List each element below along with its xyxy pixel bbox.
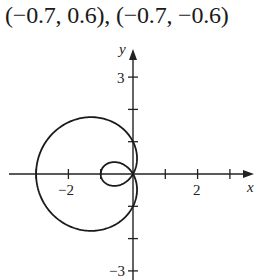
x-axis-arrow-icon xyxy=(243,170,254,178)
polar-plot: −2 2 3 −3 x y xyxy=(0,0,261,280)
y-axis-arrow-icon xyxy=(129,49,137,60)
y-tick-label-3: 3 xyxy=(117,70,125,86)
x-axis-label: x xyxy=(246,179,254,195)
x-tick-label-neg2: −2 xyxy=(58,182,74,198)
x-tick-label-2: 2 xyxy=(193,182,201,198)
y-tick-label-neg3: −3 xyxy=(109,263,125,279)
y-axis-label: y xyxy=(117,41,126,57)
